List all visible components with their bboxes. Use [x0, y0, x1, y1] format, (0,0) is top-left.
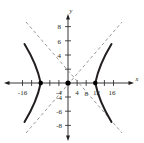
x-tick-label-12: 12 — [93, 89, 101, 97]
x-axis-arrow — [129, 81, 135, 85]
y-axis — [66, 14, 70, 141]
vertex-left-point — [38, 81, 43, 86]
coordinate-plane: -16 -4 4 8 12 16 8 6 4 -4 -6 -8 x y — [0, 0, 144, 143]
right-branch-upper — [95, 44, 111, 83]
y-tick-label-4: 4 — [58, 52, 62, 60]
y-axis-arrow-down — [66, 136, 70, 142]
x-axis-arrow-left — [4, 81, 10, 85]
x-tick-label-neg16: -16 — [18, 89, 28, 97]
x-tick-label-16: 16 — [109, 89, 117, 97]
center-point — [65, 80, 70, 85]
x-tick-label-8: 8 — [84, 90, 88, 98]
y-axis-arrow — [66, 14, 70, 20]
left-branch-upper — [25, 44, 41, 83]
y-tick-label-6: 6 — [58, 38, 62, 46]
y-tick-label-neg4: -4 — [56, 94, 62, 102]
x-tick-label-4: 4 — [75, 89, 79, 97]
y-tick-label-8: 8 — [58, 23, 62, 31]
y-tick-label-neg8: -8 — [56, 122, 62, 130]
x-axis-label: x — [135, 75, 139, 82]
vertex-right-point — [93, 81, 98, 86]
y-axis-label: y — [69, 7, 73, 14]
y-tick-label-neg6: -6 — [56, 108, 62, 116]
hyperbola-graph-figure: -16 -4 4 8 12 16 8 6 4 -4 -6 -8 x y — [0, 0, 144, 143]
